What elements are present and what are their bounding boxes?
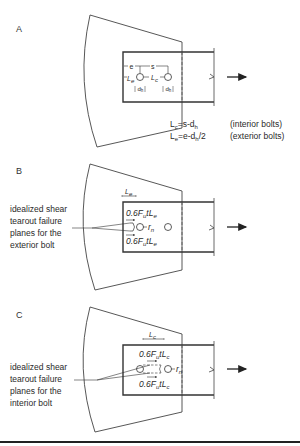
bolt-hole-exterior-b bbox=[137, 224, 144, 231]
panel-a: A e s Le Lc dh dh Lc=s-dh (interior bolt… bbox=[16, 15, 284, 147]
equation-lc: Lc=s-dh bbox=[170, 119, 198, 130]
force-bottom-c: 0.6FutLc bbox=[139, 379, 169, 390]
force-top-c: 0.6FutLc bbox=[139, 349, 169, 360]
equation-le: Le=e-dh/2 bbox=[170, 131, 206, 142]
equation-lc-note: (interior bolts) bbox=[230, 119, 282, 129]
dim-s: s bbox=[151, 63, 155, 70]
rn-label-b: rn bbox=[148, 222, 155, 233]
tearout-block-end-c bbox=[160, 365, 162, 373]
tearout-block-b bbox=[130, 223, 135, 231]
panel-c: C Lc 0.6FutLc 0.6FutLc rn idealized shea… bbox=[10, 307, 246, 432]
callout-line-4-c: interior bolt bbox=[10, 398, 53, 408]
break-symbol-a bbox=[209, 74, 214, 79]
bolt-hole-interior-b bbox=[165, 224, 172, 231]
panel-label-b: B bbox=[16, 166, 22, 176]
callout-line-3-c: planes for the bbox=[10, 386, 62, 396]
dim-le: Le bbox=[127, 75, 135, 84]
callout-line-1-b: idealized shear bbox=[10, 204, 67, 214]
shear-tearout-diagram: A e s Le Lc dh dh Lc=s-dh (interior bolt… bbox=[0, 0, 300, 446]
equation-le-note: (exterior bolts) bbox=[230, 131, 284, 141]
bolt-hole-interior-c bbox=[165, 366, 172, 373]
bolt-hole-exterior-c bbox=[137, 366, 144, 373]
callout-line-1-c: idealized shear bbox=[10, 362, 67, 372]
break-symbol-c bbox=[209, 367, 214, 372]
bolt-hole-exterior-a bbox=[137, 74, 144, 81]
panel-b: B Le 0.6FutLe 0.6FutLe rn idealized shea… bbox=[10, 164, 246, 290]
callout-line-3-b: planes for the bbox=[10, 228, 62, 238]
force-top-b: 0.6FutLe bbox=[126, 208, 157, 219]
panel-label-a: A bbox=[16, 24, 22, 34]
dim-dh-2: dh bbox=[166, 86, 172, 93]
panel-label-c: C bbox=[16, 310, 23, 320]
callout-leader-b bbox=[72, 223, 130, 231]
callout-line-2-b: tearout failure bbox=[10, 216, 62, 226]
dim-lc: Lc bbox=[151, 74, 158, 83]
break-symbol-b bbox=[209, 225, 214, 230]
callout-line-4-b: exterior bolt bbox=[10, 240, 55, 250]
force-bottom-b: 0.6FutLe bbox=[126, 236, 157, 247]
dim-dh-1: dh bbox=[138, 86, 144, 93]
dim-e: e bbox=[130, 63, 134, 70]
dim-le-b: Le bbox=[125, 188, 133, 197]
callout-line-2-c: tearout failure bbox=[10, 374, 62, 384]
bolt-hole-interior-a bbox=[165, 74, 172, 81]
dim-lc-c: Lc bbox=[149, 331, 156, 340]
